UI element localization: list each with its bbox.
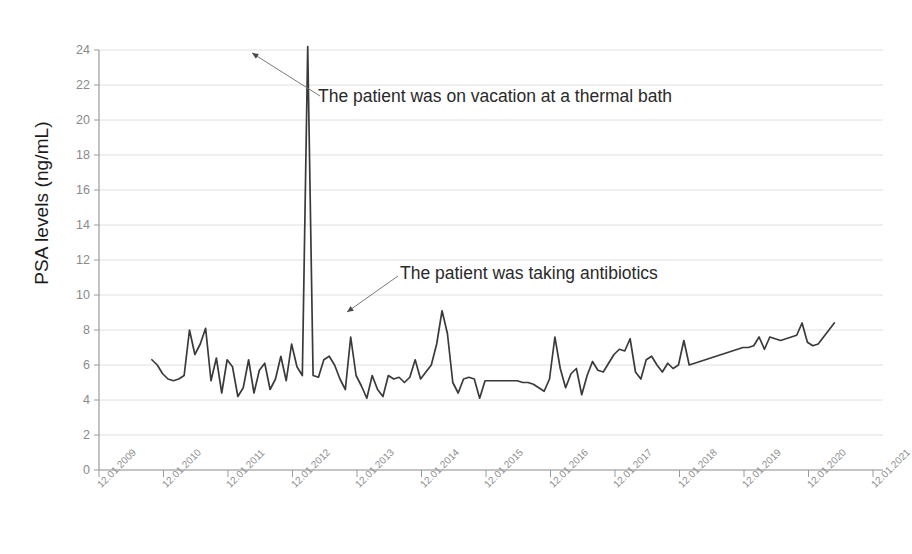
antibiotics-annotation-label: The patient was taking antibiotics	[400, 263, 658, 284]
antibiotics-annotation-arrowhead	[347, 306, 354, 312]
antibiotics-annotation-leader	[347, 276, 398, 312]
gridlines	[99, 50, 883, 470]
vacation-annotation-label: The patient was on vacation at a thermal…	[318, 86, 672, 107]
vacation-annotation-arrowhead	[252, 53, 259, 59]
vacation-annotation-leader	[252, 53, 320, 96]
